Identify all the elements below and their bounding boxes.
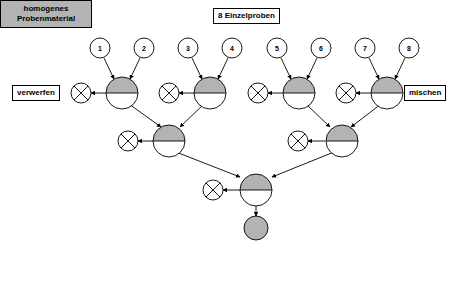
sample-label-2: 2 <box>142 45 146 52</box>
mix-label-box: mischen <box>404 85 446 101</box>
discard-icon-3[interactable] <box>248 83 268 103</box>
sample-circles-group: 1 2 3 4 5 6 7 <box>90 38 419 58</box>
level1-node-3[interactable] <box>283 77 315 109</box>
discard-icon-5[interactable] <box>118 131 138 151</box>
sample-circle-8[interactable]: 8 <box>399 38 419 58</box>
sample-label-1: 1 <box>98 45 102 52</box>
sample-circle-6[interactable]: 6 <box>311 38 331 58</box>
discard-icon-7[interactable] <box>203 180 223 200</box>
edges-level1-to-level2 <box>129 104 381 127</box>
edges-level2-to-level3 <box>176 152 334 177</box>
discard-icon-2[interactable] <box>159 83 179 103</box>
sample-reduction-flow-diagram: 1 2 3 4 5 6 7 <box>0 0 458 294</box>
diagram-title-box: 8 Einzelproben <box>213 8 280 24</box>
sample-circle-2[interactable]: 2 <box>134 38 154 58</box>
sample-circle-5[interactable]: 5 <box>267 38 287 58</box>
level2-node-1[interactable] <box>153 125 185 157</box>
discard-icon-4[interactable] <box>336 83 356 103</box>
sample-label-5: 5 <box>275 45 279 52</box>
final-sample-node[interactable] <box>244 216 268 240</box>
level1-node-2[interactable] <box>194 77 226 109</box>
level2-nodes-group <box>153 125 358 157</box>
sample-circle-7[interactable]: 7 <box>355 38 375 58</box>
sample-label-8: 8 <box>407 45 411 52</box>
sample-circle-3[interactable]: 3 <box>178 38 198 58</box>
discard-icon-6[interactable] <box>288 131 308 151</box>
sample-label-4: 4 <box>230 45 234 52</box>
sample-label-7: 7 <box>363 45 367 52</box>
sample-label-3: 3 <box>186 45 190 52</box>
discard-label-box: verwerfen <box>12 85 60 101</box>
diagram-canvas: 1 2 3 4 5 6 7 <box>0 0 458 294</box>
sample-label-6: 6 <box>319 45 323 52</box>
sample-circle-1[interactable]: 1 <box>90 38 110 58</box>
level1-node-4[interactable] <box>371 77 403 109</box>
discard-icon-1[interactable] <box>71 83 91 103</box>
level3-node[interactable] <box>240 174 272 206</box>
sample-circle-4[interactable]: 4 <box>222 38 242 58</box>
level2-node-2[interactable] <box>326 125 358 157</box>
edges-samples-to-level1 <box>104 58 405 79</box>
level1-node-1[interactable] <box>106 77 138 109</box>
